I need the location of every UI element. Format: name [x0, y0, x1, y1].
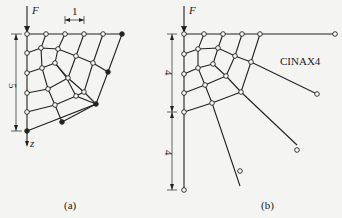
- side-dim-upper-label-b: 4: [163, 70, 175, 76]
- dim-arrowhead: [65, 18, 70, 22]
- node: [46, 87, 51, 92]
- node: [40, 66, 45, 71]
- node: [53, 61, 58, 66]
- node: [39, 46, 44, 51]
- z-axis-arrowhead: [25, 141, 29, 147]
- node: [56, 47, 61, 52]
- force-label-a: F: [31, 4, 39, 16]
- node: [25, 32, 30, 37]
- node: [196, 66, 201, 71]
- node: [82, 90, 87, 95]
- node: [182, 91, 187, 96]
- node: [211, 62, 216, 67]
- node: [258, 32, 263, 37]
- node: [333, 32, 338, 37]
- caption-a: (a): [64, 199, 77, 212]
- figure: F 1 5 z: [0, 0, 342, 218]
- node: [210, 101, 215, 106]
- node: [238, 169, 243, 174]
- node: [182, 110, 187, 115]
- node: [196, 47, 201, 52]
- nodes-a: [25, 32, 125, 134]
- node: [203, 83, 208, 88]
- node: [66, 76, 71, 81]
- z-axis-label: z: [29, 137, 35, 149]
- node: [63, 32, 68, 37]
- side-dim-lower-label-b: 4: [163, 150, 175, 156]
- panel-b: F 4 4: [163, 4, 337, 212]
- node: [239, 90, 244, 95]
- node: [101, 32, 106, 37]
- node: [224, 74, 229, 79]
- node: [91, 61, 96, 66]
- node: [249, 60, 254, 65]
- dim-arrowhead: [14, 125, 18, 131]
- node: [216, 46, 221, 51]
- node: [202, 32, 207, 37]
- node: [74, 54, 79, 59]
- element-type-label: CINAX4: [280, 55, 321, 67]
- dim-arrowhead: [170, 106, 174, 112]
- node: [25, 71, 30, 76]
- dim-arrowhead: [170, 184, 174, 190]
- force-label-b: F: [188, 4, 196, 16]
- node: [221, 32, 226, 37]
- node: [295, 148, 300, 153]
- node-filled: [60, 120, 65, 125]
- caption-b: (b): [261, 199, 274, 212]
- node: [182, 188, 187, 193]
- node: [182, 32, 187, 37]
- node: [82, 32, 87, 37]
- node: [315, 92, 320, 97]
- node-filled: [94, 102, 99, 107]
- dim-arrowhead: [170, 112, 174, 118]
- top-dim-label-a: 1: [72, 5, 78, 17]
- node: [182, 72, 187, 77]
- node: [240, 32, 245, 37]
- node: [74, 94, 79, 99]
- node: [25, 91, 30, 96]
- dim-arrowhead: [14, 34, 18, 40]
- node: [25, 51, 30, 56]
- side-dim-label-a: 5: [7, 83, 19, 89]
- node-filled: [25, 129, 30, 134]
- panel-a: F 1 5 z: [7, 4, 124, 212]
- dim-arrowhead: [170, 34, 174, 40]
- node-filled: [106, 70, 111, 75]
- node-filled: [120, 32, 125, 37]
- node: [182, 52, 187, 57]
- node: [25, 110, 30, 115]
- node: [53, 103, 58, 108]
- dim-arrowhead: [79, 18, 84, 22]
- node: [233, 54, 238, 59]
- node: [44, 32, 49, 37]
